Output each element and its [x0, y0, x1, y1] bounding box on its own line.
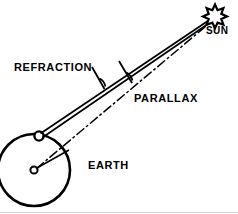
refraction-label: REFRACTION: [14, 62, 92, 73]
sun-label: SUN: [206, 26, 228, 36]
earth-label: EARTH: [88, 160, 129, 171]
refracted-ray-line: [41, 20, 211, 134]
diagram-canvas: REFRACTION PARALLAX EARTH SUN: [0, 0, 238, 214]
refraction-angle-tick: [92, 67, 105, 89]
diagram-svg: [0, 0, 238, 214]
earth-radius-line: [37, 150, 70, 168]
parallax-label: PARALLAX: [134, 93, 198, 104]
topocentric-ray-line: [43, 22, 212, 138]
